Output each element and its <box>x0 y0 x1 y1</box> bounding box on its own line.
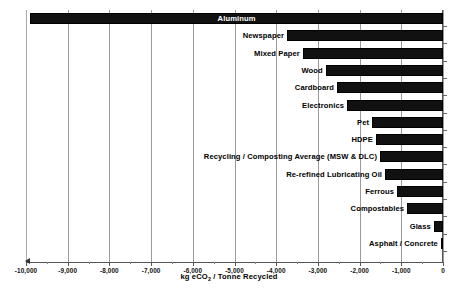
x-axis-title-post: / Tonne Recycled <box>211 272 278 281</box>
gridline <box>193 10 194 262</box>
x-axis-title-pre: kg eCO <box>180 272 208 281</box>
bar-category-label: Glass <box>410 221 431 232</box>
tick-mark <box>276 262 277 266</box>
bar-chart: AluminumNewspaperMixed PaperWoodCardboar… <box>0 0 458 298</box>
bar <box>397 186 443 197</box>
gridline <box>151 10 152 262</box>
tick-mark <box>401 262 402 266</box>
tick-mark <box>109 262 110 266</box>
minor-tick-mark <box>297 262 298 264</box>
x-axis-title: kg eCO2 / Tonne Recycled <box>0 272 458 281</box>
row-tick <box>443 130 447 131</box>
row-tick <box>443 216 447 217</box>
row-tick <box>443 164 447 165</box>
bar <box>337 82 443 93</box>
bar <box>326 65 443 76</box>
bar <box>380 151 443 162</box>
row-tick <box>443 61 447 62</box>
bar-category-label: Newspaper <box>243 30 284 41</box>
row-tick <box>443 234 447 235</box>
row-tick <box>443 147 447 148</box>
gridline <box>68 10 69 262</box>
minor-tick-mark <box>255 262 256 264</box>
bar-category-label: Recycling / Composting Average (MSW & DL… <box>204 151 377 162</box>
row-tick <box>443 113 447 114</box>
minor-tick-mark <box>89 262 90 264</box>
minor-tick-mark <box>130 262 131 264</box>
gridline <box>235 10 236 262</box>
bar <box>441 238 443 249</box>
row-tick <box>443 251 447 252</box>
bar <box>287 30 443 41</box>
tick-mark <box>360 262 361 266</box>
tick-mark <box>193 262 194 266</box>
tick-mark <box>26 262 27 266</box>
bar <box>376 134 443 145</box>
bar-category-label: Compostables <box>351 203 405 214</box>
row-tick <box>443 43 447 44</box>
bar <box>347 100 443 111</box>
minor-tick-mark <box>172 262 173 264</box>
bar-category-label: Ferrous <box>365 186 394 197</box>
plot-area: AluminumNewspaperMixed PaperWoodCardboar… <box>26 10 443 262</box>
tick-mark <box>151 262 152 266</box>
x-axis-title-subscript: 2 <box>208 276 211 282</box>
bar-category-label: Cardboard <box>295 82 334 93</box>
minor-tick-mark <box>339 262 340 264</box>
tick-mark <box>235 262 236 266</box>
bar <box>407 203 443 214</box>
bar <box>372 117 443 128</box>
bar <box>434 221 443 232</box>
bar-category-label: Pet <box>357 117 369 128</box>
bar-category-label: Asphalt / Concrete <box>369 238 438 249</box>
gridline <box>109 10 110 262</box>
y-axis-line <box>26 10 27 262</box>
bar-category-label: Re-refined Lubricating Oil <box>286 169 382 180</box>
row-tick <box>443 26 447 27</box>
row-tick <box>443 78 447 79</box>
gridline <box>443 10 444 262</box>
minor-tick-mark <box>380 262 381 264</box>
minor-tick-mark <box>422 262 423 264</box>
bar-category-label: Aluminum <box>30 13 443 24</box>
tick-mark <box>443 262 444 266</box>
minor-tick-mark <box>214 262 215 264</box>
bar-category-label: Mixed Paper <box>254 48 300 59</box>
bar-category-label: Wood <box>301 65 322 76</box>
row-tick <box>443 95 447 96</box>
row-tick <box>443 182 447 183</box>
bar-category-label: HDPE <box>351 134 373 145</box>
bar-category-label: Electronics <box>302 100 344 111</box>
tick-mark <box>318 262 319 266</box>
tick-mark <box>68 262 69 266</box>
bar <box>303 48 443 59</box>
bar <box>385 169 443 180</box>
row-tick <box>443 199 447 200</box>
minor-tick-mark <box>47 262 48 264</box>
